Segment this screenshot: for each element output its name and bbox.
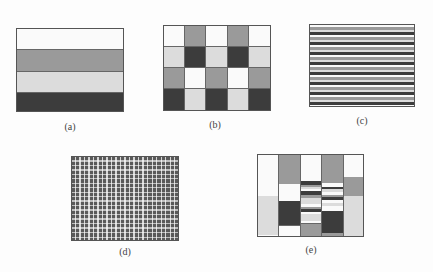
label-d: (d) [119,246,131,257]
grid-cell-white [249,26,270,47]
grid-cell-dark [249,89,270,110]
grid-cell-gray [228,26,249,47]
grid-cell-light [164,47,185,68]
label-b: (b) [209,119,221,130]
grid-cell-light [228,89,249,110]
e-column-3 [301,155,322,236]
e-column-5 [344,155,364,236]
band-gray [17,50,123,72]
band-light [17,72,123,93]
grid-cell-light [206,47,227,68]
band-white [17,29,123,50]
panel-b-checker-grid [163,25,271,111]
label-e: (e) [305,244,316,255]
grid-cell-gray [206,68,227,89]
label-c: (c) [356,115,367,126]
grid-cell-gray [185,26,206,47]
grid-cell-white [206,26,227,47]
grid-cell-white [228,68,249,89]
e-column-4 [322,155,344,236]
panel-e-mixed-columns [257,154,364,237]
grid-cell-dark [164,89,185,110]
grid-cell-light [249,47,270,68]
grid-cell-dark [228,47,249,68]
panel-a-horizontal-bands [16,28,124,112]
grid-cell-white [164,26,185,47]
panel-c-fine-stripes [309,24,415,107]
grid-cell-gray [164,68,185,89]
grid-cell-dark [206,89,227,110]
label-a: (a) [64,121,75,132]
grid-cell-dark [185,47,206,68]
grid-cell-gray [249,68,270,89]
band-dark [17,93,123,112]
panel-d-fine-checker [71,156,179,241]
e-column-2 [279,155,301,236]
grid-cell-light [185,89,206,110]
grid-b [164,26,270,110]
e-column-1 [258,155,279,236]
grid-cell-white [185,68,206,89]
